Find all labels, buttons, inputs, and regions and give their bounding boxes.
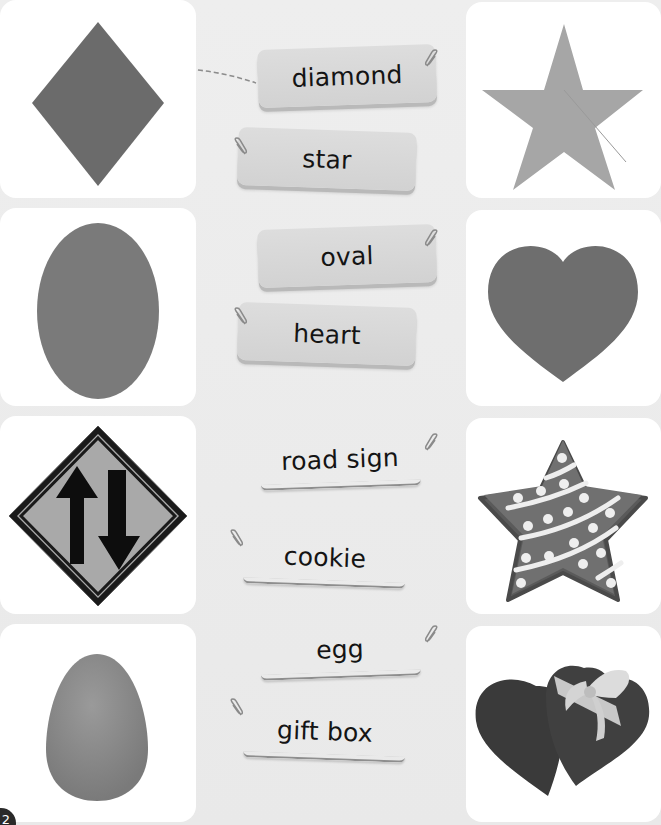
- word-label-heart[interactable]: heart: [237, 302, 417, 366]
- word-text: gift box: [277, 715, 374, 747]
- word-blank-road-sign[interactable]: road sign: [259, 427, 421, 491]
- word-label-oval[interactable]: oval: [257, 224, 437, 288]
- word-label-star[interactable]: star: [237, 127, 417, 191]
- image-card-oval[interactable]: [0, 208, 196, 406]
- paperclip-icon: [232, 136, 248, 158]
- paperclip-icon: [424, 228, 440, 250]
- blank-underline: [261, 479, 421, 491]
- star-cookie-icon: [466, 418, 661, 614]
- paperclip-icon: [424, 624, 440, 646]
- image-card-heart[interactable]: [466, 210, 661, 406]
- word-text: oval: [320, 241, 374, 272]
- paperclip-icon: [228, 528, 244, 550]
- diamond-shape-icon: [0, 0, 196, 198]
- image-card-gift-box[interactable]: [466, 626, 661, 822]
- word-text: diamond: [291, 60, 403, 93]
- word-text: cookie: [283, 541, 366, 573]
- road-sign-icon: [0, 416, 196, 614]
- image-card-egg[interactable]: [0, 624, 196, 822]
- word-text: egg: [316, 634, 365, 665]
- oval-shape-icon: [0, 208, 196, 406]
- blank-underline: [243, 577, 405, 589]
- worksheet-page: diamond star oval heart: [0, 0, 661, 825]
- image-card-star[interactable]: [466, 2, 661, 198]
- page-number: 2: [2, 812, 10, 825]
- star-shape-icon: [466, 2, 661, 198]
- paperclip-icon: [424, 432, 440, 454]
- image-card-road-sign[interactable]: [0, 416, 196, 614]
- word-text: star: [302, 144, 352, 175]
- image-card-cookie[interactable]: [466, 418, 661, 614]
- image-card-diamond[interactable]: [0, 0, 196, 198]
- word-label-diamond[interactable]: diamond: [257, 44, 437, 108]
- word-blank-gift-box[interactable]: gift box: [243, 699, 407, 763]
- word-blank-cookie[interactable]: cookie: [243, 525, 407, 589]
- heart-shape-icon: [466, 210, 661, 406]
- paperclip-icon: [424, 48, 440, 70]
- paperclip-icon: [228, 697, 244, 719]
- word-text: road sign: [281, 442, 400, 475]
- word-text: heart: [293, 318, 362, 349]
- word-blank-egg[interactable]: egg: [259, 617, 421, 681]
- blank-underline: [261, 669, 421, 681]
- blank-underline: [243, 751, 405, 763]
- paperclip-icon: [232, 306, 248, 328]
- egg-icon: [0, 624, 196, 822]
- heart-gift-box-icon: [466, 626, 661, 822]
